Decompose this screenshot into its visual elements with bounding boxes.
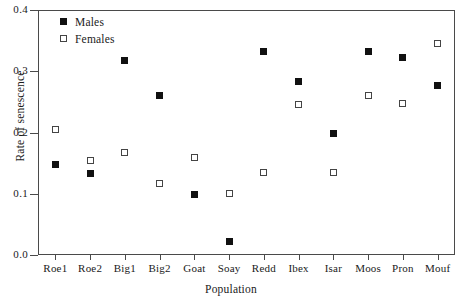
x-tick-pron [403,255,404,260]
data-point-redd-male [260,48,267,55]
x-tick-isar [333,255,334,260]
x-tick-roe1 [55,255,56,260]
data-point-mouf-female [434,40,441,47]
data-point-isar-male [330,130,337,137]
legend-label-females: Females [75,33,115,45]
data-point-big2-male [156,92,163,99]
data-point-pron-male [399,54,406,61]
data-point-big1-male [121,57,128,64]
data-point-ibex-female [295,101,302,108]
data-point-soay-female [226,190,233,197]
y-tick-0 [30,255,38,256]
legend-label-males: Males [75,16,104,28]
x-tick-redd [264,255,265,260]
data-point-big1-female [121,149,128,156]
y-tick-label-4: 0.4 [0,4,28,15]
data-point-redd-female [260,169,267,176]
x-tick-roe2 [90,255,91,260]
x-tick-label-mouf: Mouf [414,262,462,274]
legend: Males Females [60,14,115,48]
y-tick-2 [30,133,38,134]
data-point-roe1-female [52,126,59,133]
y-tick-4 [30,10,38,11]
data-point-mouf-male [434,82,441,89]
data-point-goat-male [191,191,198,198]
data-point-moos-male [365,48,372,55]
filled-square-icon [60,18,67,25]
y-tick-3 [30,71,38,72]
legend-item-males: Males [60,14,115,29]
y-tick-label-2: 0.2 [0,127,28,138]
x-tick-big2 [160,255,161,260]
data-point-soay-male [226,238,233,245]
open-square-icon [60,35,67,42]
data-point-roe2-male [87,170,94,177]
legend-item-females: Females [60,31,115,46]
x-axis-title: Population [0,283,462,295]
data-point-big2-female [156,180,163,187]
x-tick-ibex [299,255,300,260]
y-tick-label-1: 0.1 [0,188,28,199]
y-tick-label-0: 0.0 [0,249,28,260]
x-tick-moos [368,255,369,260]
data-point-roe1-male [52,161,59,168]
data-point-roe2-female [87,157,94,164]
x-tick-big1 [125,255,126,260]
x-tick-goat [194,255,195,260]
data-point-goat-female [191,154,198,161]
y-tick-label-3: 0.3 [0,65,28,76]
data-point-pron-female [399,100,406,107]
y-tick-1 [30,194,38,195]
data-point-moos-female [365,92,372,99]
x-tick-soay [229,255,230,260]
data-point-ibex-male [295,78,302,85]
senescence-scatter-chart: Rate of senescence 0.00.10.20.30.4 Roe1R… [0,0,462,303]
data-point-isar-female [330,169,337,176]
x-tick-mouf [438,255,439,260]
